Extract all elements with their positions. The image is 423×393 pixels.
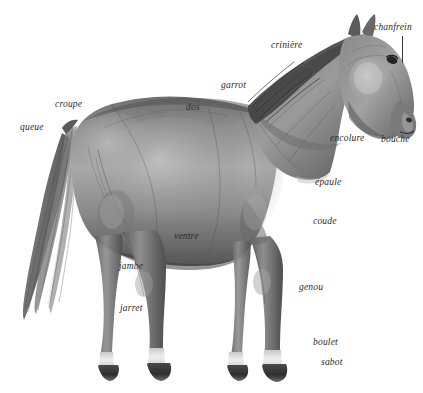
label-genou: genou <box>299 283 323 293</box>
label-jambe: jambe <box>119 262 143 272</box>
label-queue: queue <box>20 123 44 133</box>
label-sabot: sabot <box>321 358 343 368</box>
label-chanfrein: chanfrein <box>374 23 412 33</box>
label-epaule: épaule <box>315 178 342 188</box>
label-bouche: bouche <box>381 135 410 145</box>
label-encolure: encolure <box>330 134 364 144</box>
label-ventre: ventre <box>174 232 199 242</box>
horse-illustration <box>0 0 423 393</box>
label-boulet: boulet <box>313 338 338 348</box>
horse-anatomy-figure: chanfrein crinière garrot croupe dos que… <box>0 0 423 393</box>
label-jarret: jarret <box>120 304 143 314</box>
chanfrein-leader-line <box>402 36 403 63</box>
label-dos: dos <box>186 103 200 113</box>
label-coude: coude <box>313 217 337 227</box>
horse-leg-fore-near <box>250 236 287 382</box>
label-garrot: garrot <box>221 81 246 91</box>
horse-tail <box>23 120 78 320</box>
horse-leg-hind-far <box>95 234 122 381</box>
label-croupe: croupe <box>55 100 82 110</box>
label-criniere: crinière <box>271 41 302 51</box>
horse-head <box>339 14 416 139</box>
